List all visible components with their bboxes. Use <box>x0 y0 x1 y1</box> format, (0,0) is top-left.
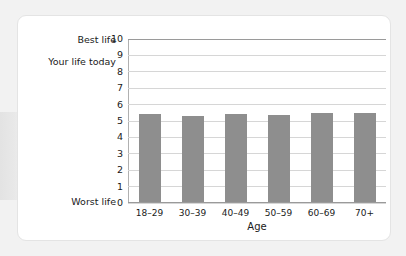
gridline-0 <box>128 203 386 204</box>
gridline-1 <box>128 186 386 187</box>
gridline-10 <box>128 39 386 40</box>
y-tick-label-0: 0 <box>103 198 123 208</box>
chart-card: Your life today Best life Worst life 012… <box>17 15 391 241</box>
x-tick-label-30–39: 30–39 <box>171 208 214 218</box>
x-tick-label-50–59: 50–59 <box>257 208 300 218</box>
y-tick-label-8: 8 <box>103 67 123 77</box>
y-tick-label-1: 1 <box>103 182 123 192</box>
gridline-9 <box>128 55 386 56</box>
gridline-4 <box>128 137 386 138</box>
bar-30–39 <box>182 116 204 202</box>
bar-18–29 <box>139 114 161 202</box>
y-tick-label-4: 4 <box>103 132 123 142</box>
bar-60–69 <box>311 113 333 202</box>
y-tick-label-10: 10 <box>103 34 123 44</box>
x-tick-label-18–29: 18–29 <box>128 208 171 218</box>
x-tick-label-60–69: 60–69 <box>300 208 343 218</box>
gridline-5 <box>128 121 386 122</box>
bar-chart: Your life today Best life Worst life 012… <box>18 16 392 242</box>
gridline-2 <box>128 170 386 171</box>
y-tick-label-2: 2 <box>103 165 123 175</box>
plot-area: 012345678910 18–2930–3940–4950–5960–6970… <box>128 39 386 203</box>
x-tick-label-40–49: 40–49 <box>214 208 257 218</box>
bar-50–59 <box>268 115 290 202</box>
gridline-6 <box>128 104 386 105</box>
x-tick-label-70+: 70+ <box>343 208 386 218</box>
gridline-8 <box>128 71 386 72</box>
y-tick-label-9: 9 <box>103 50 123 60</box>
x-axis-title: Age <box>128 221 386 232</box>
y-tick-label-6: 6 <box>103 100 123 110</box>
bar-70+ <box>354 113 376 202</box>
y-tick-label-7: 7 <box>103 83 123 93</box>
gridline-3 <box>128 153 386 154</box>
gridline-7 <box>128 88 386 89</box>
y-tick-label-5: 5 <box>103 116 123 126</box>
bar-40–49 <box>225 114 247 202</box>
y-tick-label-3: 3 <box>103 149 123 159</box>
